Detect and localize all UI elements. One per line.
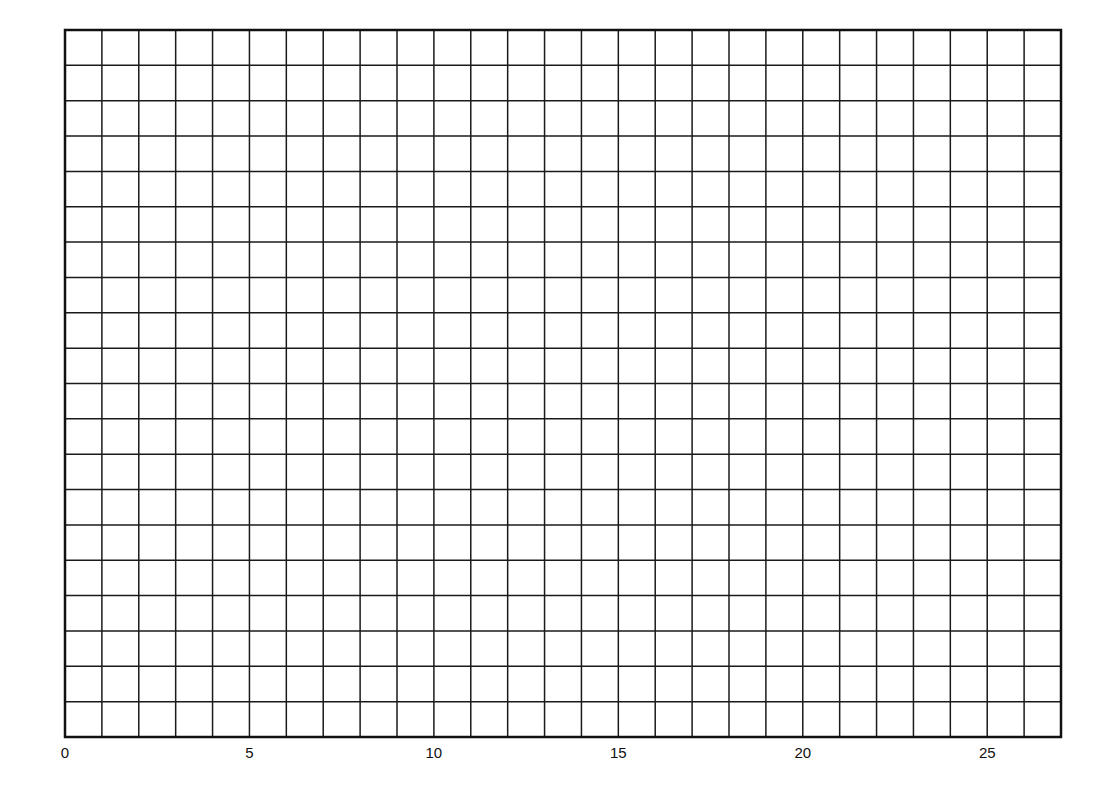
x-tick-label: 0	[61, 744, 69, 761]
x-tick-label: 20	[794, 744, 811, 761]
empty-grid-chart: 0510152025	[0, 0, 1097, 812]
x-axis-tick-labels: 0510152025	[61, 744, 996, 761]
x-tick-label: 5	[245, 744, 253, 761]
x-tick-label: 25	[979, 744, 996, 761]
x-tick-label: 10	[426, 744, 443, 761]
x-tick-label: 15	[610, 744, 627, 761]
grid-lines	[65, 30, 1061, 737]
